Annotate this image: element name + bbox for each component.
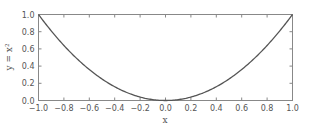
y-axis-tick-labels: 0.00.20.40.60.81.0 — [22, 11, 35, 106]
y-tick-label: 0.0 — [22, 97, 35, 106]
x-tick-label: −0.2 — [130, 104, 149, 113]
x-tick-label: 0.6 — [235, 104, 248, 113]
x-axis-tick-labels: −1.0−0.8−0.6−0.4−0.20.00.20.40.60.81.0 — [29, 104, 299, 113]
y-tick-label: 0.6 — [22, 45, 35, 54]
y-tick-label: 1.0 — [22, 11, 35, 20]
x-tick-label: 1.0 — [286, 104, 299, 113]
line-chart: −1.0−0.8−0.6−0.4−0.20.00.20.40.60.81.0 0… — [0, 0, 309, 128]
x-tick-label: −0.6 — [80, 104, 99, 113]
x-tick-label: 0.2 — [185, 104, 198, 113]
x-tick-label: 0.4 — [210, 104, 223, 113]
x-tick-label: −0.4 — [105, 104, 124, 113]
x-tick-label: 0.0 — [159, 104, 172, 113]
x-tick-label: 0.8 — [261, 104, 274, 113]
x-axis-label: x — [162, 115, 167, 125]
y-tick-label: 0.2 — [22, 79, 35, 88]
y-tick-label: 0.8 — [22, 28, 35, 37]
data-series-line — [39, 15, 293, 101]
y-axis-label: y = x² — [4, 43, 14, 71]
x-tick-label: −0.8 — [54, 104, 73, 113]
y-tick-label: 0.4 — [22, 62, 35, 71]
